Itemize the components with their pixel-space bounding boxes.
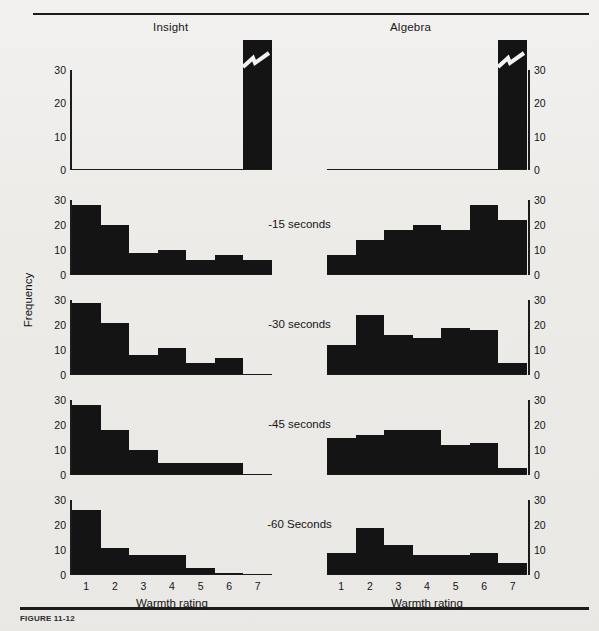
histogram-panel-algebra-row4 <box>327 500 527 575</box>
x-axis-line <box>327 169 527 171</box>
x-axis-line <box>72 474 272 476</box>
y-axis-line <box>528 400 530 475</box>
x-tick-7: 7 <box>255 581 261 592</box>
x-axis-line <box>327 274 527 276</box>
bar-6 <box>470 205 499 275</box>
bar-group <box>327 200 527 275</box>
y-tick-10: 10 <box>54 445 66 456</box>
bar-group <box>72 400 272 475</box>
bar-1 <box>72 405 101 475</box>
y-tick-0: 0 <box>60 165 66 176</box>
bar-group <box>327 300 527 375</box>
y-axis-line <box>528 500 530 575</box>
x-axis-line <box>72 374 272 376</box>
y-tick-10: 10 <box>54 131 66 142</box>
bar-3 <box>384 545 413 575</box>
y-tick-0: 0 <box>60 470 66 481</box>
y-tick-20: 20 <box>54 320 66 331</box>
column-title-insight: Insight <box>153 21 188 33</box>
bar-5 <box>441 230 470 275</box>
y-tick-30: 30 <box>534 395 546 406</box>
y-axis-line <box>70 400 72 475</box>
y-tick-10: 10 <box>534 245 546 256</box>
histogram-panel-insight-row0 <box>72 40 272 170</box>
y-tick-30: 30 <box>534 495 546 506</box>
x-tick-4: 4 <box>424 581 430 592</box>
bar-2 <box>101 225 130 275</box>
figure-root: Insight Algebra Frequency 01020300102030… <box>0 0 599 631</box>
y-tick-20: 20 <box>54 420 66 431</box>
y-axis-label: Frequency <box>22 273 34 327</box>
bar-3 <box>129 555 158 575</box>
y-axis-line <box>528 70 530 170</box>
histogram-panel-algebra-row3 <box>327 400 527 475</box>
bar-group <box>72 200 272 275</box>
y-tick-30: 30 <box>54 295 66 306</box>
x-tick-6: 6 <box>226 581 232 592</box>
y-tick-20: 20 <box>54 220 66 231</box>
y-axis-line <box>70 70 72 170</box>
y-tick-30: 30 <box>54 495 66 506</box>
bar-2 <box>101 548 130 576</box>
bar-3 <box>129 450 158 475</box>
bar-4 <box>413 225 442 275</box>
y-tick-0: 0 <box>534 470 540 481</box>
y-tick-0: 0 <box>60 370 66 381</box>
y-axis-line <box>528 300 530 375</box>
y-tick-0: 0 <box>534 370 540 381</box>
histogram-panel-algebra-row1 <box>327 200 527 275</box>
histogram-panel-algebra-row0 <box>327 40 527 170</box>
y-tick-0: 0 <box>534 165 540 176</box>
bar-1 <box>327 345 356 375</box>
y-tick-20: 20 <box>54 520 66 531</box>
bar-2 <box>356 435 385 475</box>
bar-6 <box>215 358 244 376</box>
x-tick-2: 2 <box>367 581 373 592</box>
y-tick-0: 0 <box>534 570 540 581</box>
x-tick-5: 5 <box>198 581 204 592</box>
y-tick-30: 30 <box>54 195 66 206</box>
bar-5 <box>441 328 470 376</box>
bar-3 <box>384 335 413 375</box>
x-tick-3: 3 <box>141 581 147 592</box>
bar-4 <box>158 250 187 275</box>
bar-3 <box>129 253 158 276</box>
bar-group <box>72 40 272 170</box>
y-axis-line <box>70 200 72 275</box>
panel-time-label-row3: -45 seconds <box>268 418 331 430</box>
x-tick-7: 7 <box>510 581 516 592</box>
bar-2 <box>356 528 385 576</box>
y-tick-10: 10 <box>534 545 546 556</box>
bar-7 <box>243 40 272 170</box>
bar-1 <box>72 510 101 575</box>
y-tick-20: 20 <box>534 520 546 531</box>
bar-4 <box>158 348 187 376</box>
bar-4 <box>158 555 187 575</box>
y-tick-20: 20 <box>534 98 546 109</box>
bar-7 <box>498 220 527 275</box>
bar-1 <box>327 255 356 275</box>
x-tick-5: 5 <box>453 581 459 592</box>
x-axis-label-algebra: Warmth rating <box>391 597 463 609</box>
y-tick-30: 30 <box>534 295 546 306</box>
x-tick-1: 1 <box>83 581 89 592</box>
y-axis-line <box>70 300 72 375</box>
bar-2 <box>101 323 130 376</box>
y-tick-30: 30 <box>534 65 546 76</box>
bar-4 <box>413 338 442 376</box>
bar-1 <box>72 303 101 376</box>
x-tick-1: 1 <box>338 581 344 592</box>
y-axis-line <box>528 200 530 275</box>
bar-3 <box>384 430 413 475</box>
y-tick-10: 10 <box>534 131 546 142</box>
x-tick-4: 4 <box>169 581 175 592</box>
x-tick-2: 2 <box>112 581 118 592</box>
bar-1 <box>72 205 101 275</box>
bar-6 <box>215 255 244 275</box>
bar-4 <box>413 555 442 575</box>
bar-5 <box>441 555 470 575</box>
bar-2 <box>101 430 130 475</box>
bar-1 <box>327 438 356 476</box>
x-axis-label-insight: Warmth rating <box>136 597 208 609</box>
bar-6 <box>470 553 499 576</box>
